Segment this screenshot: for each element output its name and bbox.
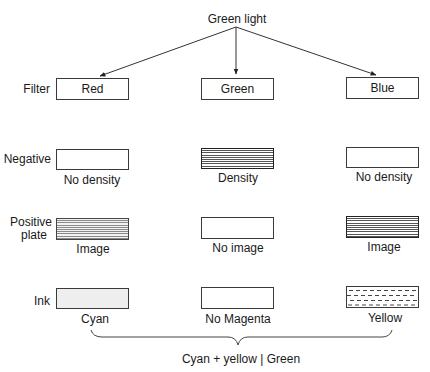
positive-box-red-image xyxy=(56,218,129,240)
negative-box-blue xyxy=(346,147,419,168)
row-label-negative: Negative xyxy=(0,152,51,166)
ink-caption: Yellow xyxy=(368,311,402,325)
negative-caption: No density xyxy=(64,173,121,187)
positive-caption: No image xyxy=(212,241,263,255)
positive-caption: Image xyxy=(367,240,400,254)
positive-box-green xyxy=(201,217,274,239)
ink-box-cyan xyxy=(56,288,129,309)
diagram-title: Green light xyxy=(208,12,267,26)
filter-label: Red xyxy=(57,79,128,99)
row-label-ink: Ink xyxy=(0,294,50,308)
negative-box-green-density xyxy=(201,148,274,169)
arrow-to-blue xyxy=(236,27,376,75)
ink-caption: Cyan xyxy=(81,312,109,326)
row-label-positive-plate-line2: plate xyxy=(0,228,47,242)
filter-label: Blue xyxy=(347,78,418,98)
ink-box-yellow xyxy=(346,286,419,308)
filter-box-blue: Blue xyxy=(346,77,419,99)
result-brace xyxy=(91,330,392,345)
negative-caption: No density xyxy=(356,170,413,184)
positive-caption: Image xyxy=(76,242,109,256)
dash-pattern xyxy=(347,287,418,307)
arrow-to-red xyxy=(100,27,236,76)
ink-caption: No Magenta xyxy=(205,312,270,326)
result-label: Cyan + yellow | Green xyxy=(182,352,300,366)
filter-label: Green xyxy=(202,79,273,99)
positive-box-blue-image xyxy=(346,216,419,238)
row-label-filter: Filter xyxy=(0,82,50,96)
filter-box-red: Red xyxy=(56,78,129,100)
negative-caption: Density xyxy=(218,171,258,185)
row-label-positive-plate-line1: Positive xyxy=(0,215,52,229)
filter-box-green: Green xyxy=(201,78,274,100)
negative-box-red xyxy=(56,149,129,170)
ink-box-no-magenta xyxy=(201,287,274,309)
